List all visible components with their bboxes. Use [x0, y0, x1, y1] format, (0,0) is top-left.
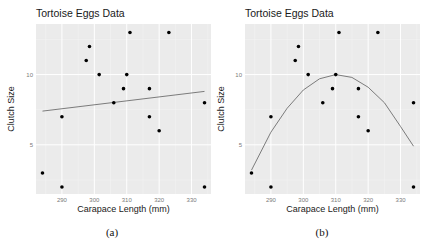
x-axis-label: Carapace Length (mm): [286, 204, 379, 214]
x-tick-label: 300: [298, 197, 309, 203]
chart-title: Tortoise Eggs Data: [36, 7, 125, 19]
data-point: [412, 185, 416, 189]
x-tick-label: 320: [363, 197, 374, 203]
x-tick-label: 290: [57, 197, 68, 203]
y-tick-label: 5: [239, 142, 243, 148]
data-point: [167, 31, 171, 35]
data-point: [297, 45, 301, 49]
data-point: [148, 87, 152, 91]
data-point: [321, 101, 325, 105]
chart-a: 290300310320330510Tortoise Eggs DataCara…: [6, 7, 211, 239]
data-point: [334, 73, 338, 77]
data-point: [269, 115, 273, 119]
x-tick-label: 330: [396, 197, 407, 203]
x-axis-label: Carapace Length (mm): [77, 204, 170, 214]
data-point: [60, 115, 64, 119]
data-point: [376, 31, 380, 35]
data-point: [366, 129, 370, 133]
data-point: [357, 87, 361, 91]
data-point: [84, 59, 88, 63]
data-point: [306, 73, 310, 77]
data-point: [269, 185, 273, 189]
data-point: [125, 73, 129, 77]
data-point: [157, 129, 161, 133]
chart-b: 290300310320330510Tortoise Eggs DataCara…: [216, 7, 420, 239]
data-point: [203, 101, 207, 105]
data-point: [357, 115, 361, 119]
x-tick-label: 330: [187, 197, 198, 203]
figure-caption: (a): [106, 226, 119, 239]
data-point: [250, 171, 254, 175]
y-tick-label: 10: [235, 72, 242, 78]
y-axis-label: Clutch Size: [216, 86, 226, 132]
figure-caption: (b): [316, 226, 329, 239]
data-point: [128, 31, 132, 35]
chart-title: Tortoise Eggs Data: [245, 7, 334, 19]
x-tick-label: 320: [154, 197, 165, 203]
y-tick-label: 10: [26, 72, 33, 78]
data-point: [331, 87, 335, 91]
x-tick-label: 290: [266, 197, 277, 203]
data-point: [97, 73, 101, 77]
data-point: [60, 185, 64, 189]
data-point: [88, 45, 92, 49]
data-point: [112, 101, 116, 105]
x-tick-label: 310: [122, 197, 133, 203]
y-axis-label: Clutch Size: [6, 86, 16, 132]
data-point: [203, 185, 207, 189]
y-tick-label: 5: [30, 142, 34, 148]
x-tick-label: 310: [331, 197, 342, 203]
data-point: [148, 115, 152, 119]
figure: 290300310320330510Tortoise Eggs DataCara…: [0, 0, 433, 244]
x-tick-label: 300: [89, 197, 100, 203]
data-point: [293, 59, 297, 63]
data-point: [337, 31, 341, 35]
data-point: [122, 87, 126, 91]
data-point: [41, 171, 45, 175]
data-point: [412, 101, 416, 105]
